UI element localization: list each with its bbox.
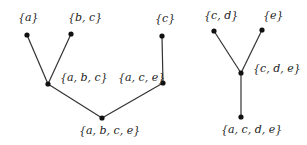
node-label-ace: {a, c, e} [118, 71, 165, 84]
node-c [159, 33, 164, 38]
node-label-abce: {a, b, c, e} [79, 124, 140, 137]
node-e [259, 27, 264, 32]
edge-cd-cde [214, 31, 241, 73]
node-label-cde: {c, d, e} [253, 62, 301, 75]
node-label-abc: {a, b, c} [60, 71, 108, 84]
edge-a-abc [27, 35, 48, 84]
labels: {a}{b, c}{a, b, c}{c}{a, c, e}{a, b, c, … [18, 9, 301, 137]
tree-diagram: {a}{b, c}{a, b, c}{c}{a, c, e}{a, b, c, … [0, 0, 307, 145]
node-label-c: {c} [155, 12, 175, 25]
node-cde [238, 70, 243, 75]
node-label-cd: {c, d} [204, 9, 238, 22]
node-label-bc: {b, c} [68, 11, 102, 24]
node-a [24, 32, 29, 37]
node-label-a: {a} [18, 11, 39, 24]
edge-ace-abce [102, 83, 163, 118]
node-cd [211, 28, 216, 33]
node-bc [68, 31, 73, 36]
edge-abc-abce [48, 84, 102, 118]
node-label-e: {e} [263, 9, 284, 22]
node-abce [99, 115, 104, 120]
node-acde [238, 114, 243, 119]
node-label-acde: {a, c, d, e} [221, 123, 282, 136]
node-abc [45, 81, 50, 86]
